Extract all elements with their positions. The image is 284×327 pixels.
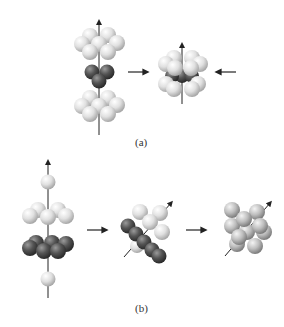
stack-b-separated <box>22 162 74 298</box>
stack-a-compressed <box>158 45 208 104</box>
panel-b <box>22 162 272 298</box>
stack-b-tilted <box>121 203 172 264</box>
caption-b: (b) <box>135 302 148 314</box>
stack-b-packed <box>224 202 272 256</box>
stack-a-separated <box>74 22 125 135</box>
caption-a: (a) <box>135 136 147 148</box>
diagram <box>0 0 284 327</box>
panel-a <box>74 22 236 135</box>
